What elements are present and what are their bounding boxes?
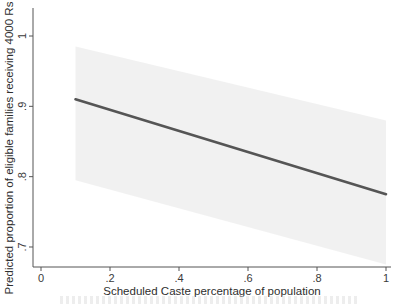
x-tick-label: .2 (105, 272, 114, 284)
chart: .7.8.91 0.2.4.6.81 Scheduled Caste perce… (0, 0, 399, 307)
confidence-band (76, 47, 387, 265)
x-tick-label: .6 (243, 272, 252, 284)
x-axis-ticks: 0.2.4.6.81 (38, 267, 389, 284)
x-tick-label: .4 (174, 272, 183, 284)
y-axis-title: Predicted proportion of eligible familie… (3, 1, 15, 294)
confidence-band-area (76, 47, 387, 265)
x-tick-label: 1 (383, 272, 389, 284)
x-tick-label: 0 (38, 272, 44, 284)
scan-bleed-through (60, 296, 360, 304)
y-tick-label: 1 (16, 33, 28, 39)
y-tick-label: .8 (16, 172, 28, 181)
y-tick-label: .7 (16, 242, 28, 251)
x-tick-label: .8 (312, 272, 321, 284)
y-tick-label: .9 (16, 102, 28, 111)
y-axis-ticks: .7.8.91 (16, 33, 33, 252)
